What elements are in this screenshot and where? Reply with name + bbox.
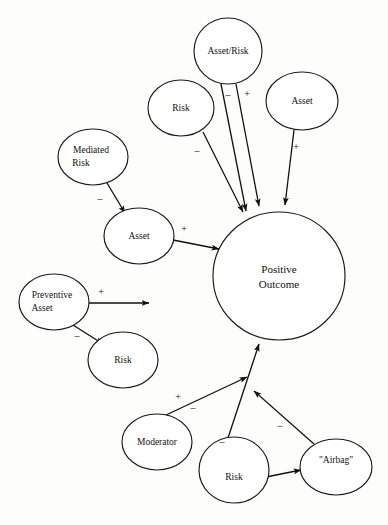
edge-risk-bottom-to-airbag	[266, 470, 301, 477]
node-mediated-risk-label-line1: Mediated	[73, 145, 109, 155]
node-risk-top-label: Risk	[172, 103, 190, 113]
node-airbag[interactable]: "Airbag"	[300, 439, 372, 495]
node-positive-outcome-label-line2: Outcome	[259, 278, 299, 290]
edge-sign-preventive-asset-positive: +	[98, 286, 104, 297]
edge-sign-asset-risk-positive: +	[244, 88, 250, 99]
node-risk-left-label: Risk	[114, 355, 132, 365]
node-asset-top-label: Asset	[291, 96, 312, 106]
node-risk-bottom[interactable]: Risk	[199, 437, 269, 503]
node-positive-outcome[interactable]: Positive Outcome	[213, 212, 345, 340]
edge-sign-asset-risk-negative: –	[225, 89, 232, 100]
node-asset-risk[interactable]: Asset/Risk	[194, 18, 262, 84]
node-moderator[interactable]: Moderator	[122, 414, 192, 470]
node-asset-risk-label: Asset/Risk	[207, 46, 248, 56]
node-airbag-shape[interactable]	[300, 439, 372, 495]
node-risk-left[interactable]: Risk	[88, 332, 158, 388]
node-airbag-label: "Airbag"	[319, 455, 353, 465]
edge-asset-risk-positive	[236, 84, 259, 206]
edge-sign-risk-top: –	[194, 145, 201, 156]
edge-sign-mediated-risk: –	[97, 193, 104, 204]
node-preventive-asset[interactable]: Preventive Asset	[19, 274, 89, 330]
node-preventive-asset-label-line1: Preventive	[32, 290, 73, 300]
node-asset-mid-label: Asset	[128, 231, 149, 241]
node-positive-outcome-label-line1: Positive	[261, 263, 297, 275]
node-positive-outcome-shape[interactable]	[213, 212, 345, 340]
edge-sign-preventive-asset-negative: –	[74, 330, 81, 341]
edge-mediated-risk-to-asset	[107, 183, 125, 213]
causal-diagram-canvas: Asset/Risk Risk Asset Mediated Risk Asse	[0, 0, 388, 525]
node-preventive-asset-label-line2: Asset	[31, 303, 52, 313]
edge-asset-mid-to-outcome	[173, 240, 219, 249]
causal-diagram-svg: Asset/Risk Risk Asset Mediated Risk Asse	[0, 0, 388, 525]
edge-risk-top-to-outcome	[203, 132, 243, 212]
edge-sign-moderator-negative: –	[190, 402, 197, 413]
nodes-layer: Asset/Risk Risk Asset Mediated Risk Asse	[19, 18, 372, 503]
node-risk-top[interactable]: Risk	[148, 80, 214, 136]
edge-sign-risk-bottom: –	[219, 436, 226, 447]
node-mediated-risk-shape[interactable]	[58, 129, 128, 185]
edge-sign-asset-top: +	[293, 141, 299, 152]
node-preventive-asset-shape[interactable]	[19, 274, 89, 330]
node-mediated-risk[interactable]: Mediated Risk	[58, 129, 128, 185]
edge-sign-asset-mid: +	[181, 223, 187, 234]
node-mediated-risk-label-line2: Risk	[72, 158, 90, 168]
node-risk-bottom-label: Risk	[225, 472, 243, 482]
node-asset-mid[interactable]: Asset	[104, 208, 174, 264]
node-moderator-label: Moderator	[137, 437, 178, 447]
node-asset-top[interactable]: Asset	[266, 72, 338, 130]
edge-sign-airbag: –	[277, 420, 284, 431]
node-risk-bottom-shape[interactable]	[199, 437, 269, 503]
edge-airbag-to-outcome	[254, 391, 314, 444]
edge-sign-moderator-positive: +	[175, 391, 181, 402]
